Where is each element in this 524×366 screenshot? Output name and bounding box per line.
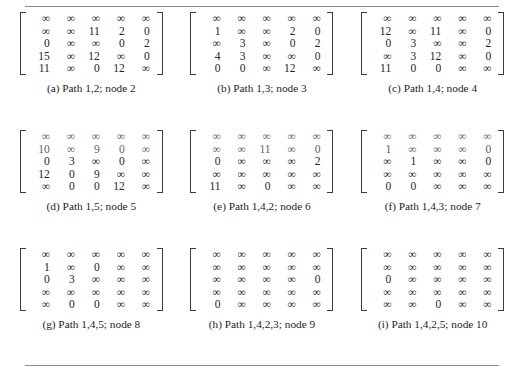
matrix-row: ∞∞∞∞∞	[199, 248, 324, 261]
matrix-cell: ∞	[370, 261, 395, 274]
matrix-cell: ∞	[395, 12, 420, 25]
matrix-row: ∞∞∞∞∞	[370, 130, 495, 143]
panel-caption-b: (b) Path 1,3; node 3	[217, 82, 306, 95]
matrix-row: ∞∞∞∞∞	[370, 261, 495, 274]
matrix-cell: ∞	[249, 261, 274, 274]
matrix-cell: 12	[370, 25, 395, 38]
matrix-cell: 12	[104, 180, 129, 193]
matrix-cell: 11	[29, 62, 54, 75]
matrix-cell: ∞	[104, 286, 129, 299]
matrix-cell: 0	[370, 180, 395, 193]
matrix-cell: ∞	[104, 298, 129, 311]
matrix-cell: 11	[249, 143, 274, 156]
matrix-cell: ∞	[199, 37, 224, 50]
matrix-table: ∞∞∞∞∞10∞90∞03∞0∞1209∞∞∞0012∞	[29, 130, 154, 193]
matrix-cell: 0	[29, 37, 54, 50]
right-bracket-icon	[156, 12, 163, 75]
matrix-row: ∞∞1120	[29, 25, 154, 38]
matrix-cell: ∞	[224, 261, 249, 274]
matrix-cell: ∞	[470, 12, 495, 25]
matrix-cell: ∞	[249, 248, 274, 261]
matrix-cell: ∞	[470, 286, 495, 299]
matrix-a: ∞∞∞∞∞∞∞11200∞∞0215∞12∞011∞012∞	[20, 12, 163, 75]
matrix-cell: 2	[129, 37, 154, 50]
panel-caption-g: (g) Path 1,4,5; node 8	[42, 318, 140, 331]
matrix-cell: 0	[249, 180, 274, 193]
matrix-cell: ∞	[29, 298, 54, 311]
matrix-row: ∞312∞0	[370, 50, 495, 63]
matrix-cell: ∞	[54, 261, 79, 274]
matrix-row: ∞∞∞∞0	[199, 273, 324, 286]
matrix-row: 43∞∞0	[199, 50, 324, 63]
matrix-d: ∞∞∞∞∞10∞90∞03∞0∞1209∞∞∞0012∞	[20, 130, 163, 193]
matrix-cell: ∞	[420, 155, 445, 168]
left-bracket-icon	[190, 12, 197, 75]
matrix-row: ∞∞0∞∞	[370, 298, 495, 311]
matrix-cell: 0	[395, 180, 420, 193]
matrix-cell: 0	[199, 298, 224, 311]
matrix-row: 10∞90∞	[29, 143, 154, 156]
matrix-cell: 0	[370, 37, 395, 50]
matrix-cell: ∞	[445, 155, 470, 168]
matrix-row: 0∞∞02	[29, 37, 154, 50]
matrix-cell: 9	[79, 143, 104, 156]
matrix-panel-b: ∞∞∞∞∞1∞∞20∞3∞0243∞∞000∞12∞(b) Path 1,3; …	[177, 9, 348, 127]
matrix-cell: ∞	[129, 298, 154, 311]
matrix-cell: ∞	[199, 286, 224, 299]
matrix-cell: 0	[199, 62, 224, 75]
matrix-cell: ∞	[445, 143, 470, 156]
matrix-cell: ∞	[224, 25, 249, 38]
matrix-cell: ∞	[129, 261, 154, 274]
matrix-cell: ∞	[129, 155, 154, 168]
matrix-cell: ∞	[299, 168, 324, 181]
matrix-cell: 0	[104, 155, 129, 168]
matrix-cell: 1	[29, 261, 54, 274]
matrix-cell: ∞	[104, 261, 129, 274]
matrix-cell: ∞	[274, 261, 299, 274]
matrix-cell: ∞	[249, 168, 274, 181]
matrix-cell: ∞	[370, 12, 395, 25]
matrix-cell: ∞	[299, 286, 324, 299]
matrix-cell: ∞	[199, 261, 224, 274]
matrix-cell: ∞	[249, 298, 274, 311]
matrix-i: ∞∞∞∞∞∞∞∞∞∞0∞∞∞∞∞∞∞∞∞∞∞0∞∞	[361, 248, 504, 311]
matrix-cell: ∞	[224, 168, 249, 181]
matrix-cell: ∞	[395, 130, 420, 143]
panel-caption-c: (c) Path 1,4; node 4	[388, 82, 477, 95]
matrix-cell: 1	[395, 155, 420, 168]
matrix-cell: ∞	[54, 286, 79, 299]
matrix-cell: 0	[129, 50, 154, 63]
matrix-cell: ∞	[420, 168, 445, 181]
panel-caption-e: (e) Path 1,4,2; node 6	[213, 200, 310, 213]
matrix-panel-i: ∞∞∞∞∞∞∞∞∞∞0∞∞∞∞∞∞∞∞∞∞∞0∞∞(i) Path 1,4,2,…	[347, 245, 518, 363]
matrix-cell: ∞	[299, 261, 324, 274]
matrix-cell: 3	[54, 155, 79, 168]
matrix-cell: ∞	[274, 130, 299, 143]
matrix-panel-d: ∞∞∞∞∞10∞90∞03∞0∞1209∞∞∞0012∞(d) Path 1,5…	[6, 127, 177, 245]
matrix-row: 0∞∞∞∞	[370, 273, 495, 286]
matrix-cell: ∞	[274, 286, 299, 299]
matrix-cell: ∞	[299, 180, 324, 193]
matrix-row: ∞∞∞∞∞	[29, 248, 154, 261]
matrix-cell: 0	[104, 37, 129, 50]
matrix-cell: ∞	[54, 130, 79, 143]
right-bracket-icon	[497, 12, 504, 75]
matrix-cell: 12	[274, 62, 299, 75]
matrix-table: ∞∞∞∞∞∞∞11∞00∞∞∞2∞∞∞∞∞11∞0∞∞	[199, 130, 324, 193]
matrix-cell: ∞	[395, 273, 420, 286]
matrix-cell: ∞	[445, 180, 470, 193]
matrix-cell: 10	[29, 143, 54, 156]
matrix-cell: 4	[199, 50, 224, 63]
matrix-cell: ∞	[199, 12, 224, 25]
matrix-row: 12∞11∞0	[370, 25, 495, 38]
matrix-cell: ∞	[249, 155, 274, 168]
matrix-cell: ∞	[420, 37, 445, 50]
matrix-cell: ∞	[370, 286, 395, 299]
matrix-row: ∞3∞02	[199, 37, 324, 50]
matrix-row: 11∞0∞∞	[199, 180, 324, 193]
matrix-cell: ∞	[199, 130, 224, 143]
matrix-cell: ∞	[249, 37, 274, 50]
matrix-cell: ∞	[129, 286, 154, 299]
left-bracket-icon	[361, 248, 368, 311]
panel-caption-h: (h) Path 1,4,2,3; node 9	[209, 318, 315, 331]
